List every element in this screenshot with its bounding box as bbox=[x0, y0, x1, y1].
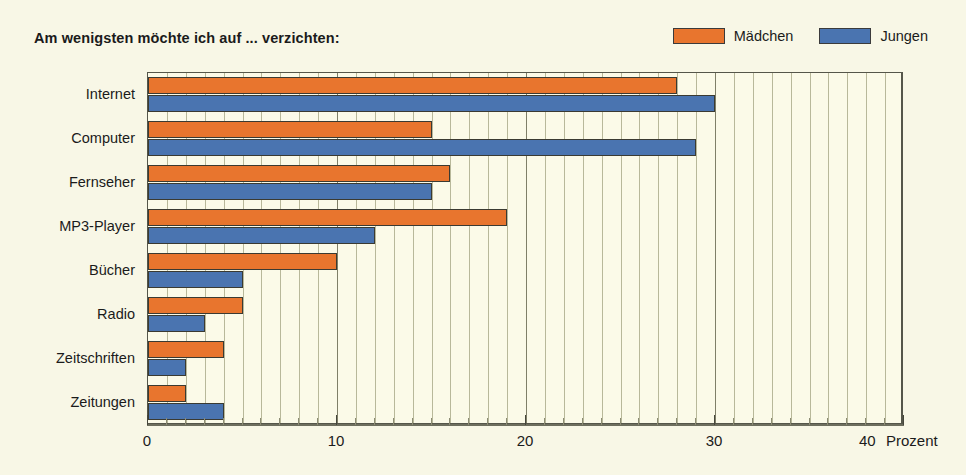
bar-jungen[interactable] bbox=[148, 139, 696, 156]
tick-minor bbox=[771, 418, 772, 425]
bar-jungen[interactable] bbox=[148, 359, 186, 376]
category-label: MP3-Player bbox=[59, 218, 135, 234]
tick-major bbox=[525, 415, 526, 425]
bar-maedchen[interactable] bbox=[148, 77, 677, 94]
legend-item-maedchen[interactable]: Mädchen bbox=[673, 28, 794, 44]
tick-minor bbox=[752, 418, 753, 425]
tick-label: 30 bbox=[706, 432, 723, 449]
tick-minor bbox=[298, 418, 299, 425]
bars-layer bbox=[148, 73, 901, 423]
tick-minor bbox=[676, 418, 677, 425]
legend-item-jungen[interactable]: Jungen bbox=[819, 28, 928, 44]
tick-minor bbox=[544, 418, 545, 425]
bar-jungen[interactable] bbox=[148, 227, 375, 244]
tick-minor bbox=[695, 418, 696, 425]
tick-minor bbox=[374, 418, 375, 425]
tick-minor bbox=[657, 418, 658, 425]
tick-major bbox=[714, 415, 715, 425]
category-axis-labels: InternetComputerFernseherMP3-PlayerBüche… bbox=[0, 72, 135, 424]
tick-minor bbox=[279, 418, 280, 425]
tick-minor bbox=[223, 418, 224, 425]
tick-minor bbox=[620, 418, 621, 425]
category-label: Bücher bbox=[89, 262, 135, 278]
tick-minor bbox=[468, 418, 469, 425]
legend-label-maedchen: Mädchen bbox=[734, 28, 794, 44]
tick-minor bbox=[563, 418, 564, 425]
tick-minor bbox=[242, 418, 243, 425]
tick-minor bbox=[166, 418, 167, 425]
chart-legend: Mädchen Jungen bbox=[673, 28, 928, 44]
tick-minor bbox=[260, 418, 261, 425]
bar-maedchen[interactable] bbox=[148, 385, 186, 402]
category-label: Internet bbox=[86, 86, 135, 102]
legend-swatch-maedchen bbox=[673, 28, 725, 44]
tick-minor bbox=[582, 418, 583, 425]
legend-label-jungen: Jungen bbox=[880, 28, 928, 44]
bar-maedchen[interactable] bbox=[148, 341, 224, 358]
bar-group bbox=[148, 341, 901, 377]
tick-minor bbox=[355, 418, 356, 425]
bar-group bbox=[148, 209, 901, 245]
tick-major bbox=[147, 415, 148, 425]
tick-minor bbox=[638, 418, 639, 425]
tick-minor bbox=[865, 418, 866, 425]
axis-unit-label: Prozent bbox=[886, 432, 938, 449]
bar-group bbox=[148, 121, 901, 157]
tick-minor bbox=[412, 418, 413, 425]
bar-jungen[interactable] bbox=[148, 183, 432, 200]
legend-swatch-jungen bbox=[819, 28, 871, 44]
category-label: Radio bbox=[97, 306, 135, 322]
bar-maedchen[interactable] bbox=[148, 121, 432, 138]
tick-label: 40 bbox=[859, 432, 876, 449]
bar-jungen[interactable] bbox=[148, 315, 205, 332]
value-axis-ticks bbox=[147, 418, 904, 426]
bar-maedchen[interactable] bbox=[148, 165, 450, 182]
tick-major bbox=[903, 415, 904, 425]
tick-label: 0 bbox=[143, 432, 151, 449]
tick-minor bbox=[733, 418, 734, 425]
tick-major bbox=[336, 415, 337, 425]
value-axis-tick-labels: 010203040Prozent bbox=[147, 432, 904, 456]
tick-minor bbox=[185, 418, 186, 425]
tick-minor bbox=[884, 418, 885, 425]
tick-label: 20 bbox=[517, 432, 534, 449]
tick-minor bbox=[601, 418, 602, 425]
category-label: Fernseher bbox=[69, 174, 135, 190]
plot-area bbox=[147, 72, 903, 424]
category-label: Zeitungen bbox=[71, 394, 136, 410]
tick-minor bbox=[449, 418, 450, 425]
tick-minor bbox=[487, 418, 488, 425]
bar-jungen[interactable] bbox=[148, 95, 715, 112]
tick-minor bbox=[317, 418, 318, 425]
bar-group bbox=[148, 77, 901, 113]
tick-minor bbox=[431, 418, 432, 425]
bar-group bbox=[148, 297, 901, 333]
bar-group bbox=[148, 165, 901, 201]
tick-minor bbox=[827, 418, 828, 425]
bar-maedchen[interactable] bbox=[148, 297, 243, 314]
tick-minor bbox=[393, 418, 394, 425]
bar-maedchen[interactable] bbox=[148, 253, 337, 270]
tick-minor bbox=[846, 418, 847, 425]
chart-title: Am wenigsten möchte ich auf ... verzicht… bbox=[34, 30, 340, 46]
category-label: Zeitschriften bbox=[56, 350, 135, 366]
bar-jungen[interactable] bbox=[148, 271, 243, 288]
tick-minor bbox=[809, 418, 810, 425]
bar-group bbox=[148, 253, 901, 289]
chart-figure: Am wenigsten möchte ich auf ... verzicht… bbox=[0, 0, 966, 475]
bar-maedchen[interactable] bbox=[148, 209, 507, 226]
category-label: Computer bbox=[71, 130, 135, 146]
tick-label: 10 bbox=[328, 432, 345, 449]
tick-minor bbox=[506, 418, 507, 425]
tick-minor bbox=[790, 418, 791, 425]
tick-minor bbox=[204, 418, 205, 425]
